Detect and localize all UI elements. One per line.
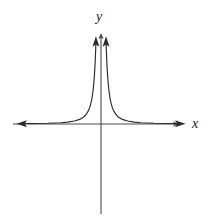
curve-right-branch	[106, 42, 181, 124]
x-axis-label: x	[192, 117, 198, 131]
graph-canvas	[0, 0, 215, 223]
graph-figure: y x	[0, 0, 215, 223]
curve-left-branch	[21, 42, 96, 124]
y-axis-label: y	[96, 10, 102, 24]
curve-right-branch-path	[104, 41, 174, 117]
